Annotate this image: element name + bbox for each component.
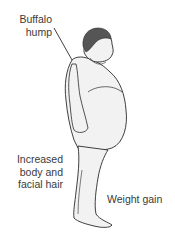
label-buffalo-hump: Buffalo hump	[8, 13, 52, 38]
label-hair-line-1: Increased	[2, 153, 63, 166]
label-buffalo-hump-line-1: Buffalo	[8, 13, 52, 26]
label-increased-hair: Increased body and facial hair	[2, 153, 63, 191]
label-weight-gain: Weight gain	[107, 193, 162, 206]
label-hair-line-3: facial hair	[2, 178, 63, 191]
label-weight-gain-line-1: Weight gain	[107, 193, 162, 206]
label-hair-line-2: body and	[2, 166, 63, 179]
legs	[74, 146, 112, 227]
label-buffalo-hump-line-2: hump	[8, 26, 52, 39]
buffalo-hump-leader-line	[54, 28, 72, 60]
